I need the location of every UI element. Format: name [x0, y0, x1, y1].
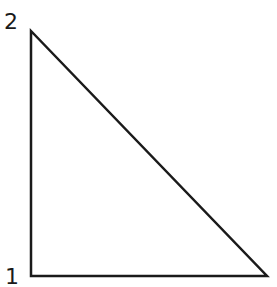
vertex-label-top: 2	[4, 11, 18, 33]
triangle-diagram: 2 1	[0, 0, 277, 287]
triangle-shape	[0, 0, 277, 287]
vertex-label-bottom: 1	[5, 266, 19, 287]
